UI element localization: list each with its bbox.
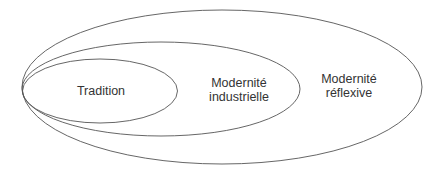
label-modernite-reflexive-line-2: réflexive: [304, 86, 394, 100]
label-modernite-industrielle-line-1: Modernité: [194, 76, 284, 90]
label-tradition: Tradition: [66, 84, 136, 98]
label-tradition-line-1: Tradition: [66, 84, 136, 98]
label-modernite-industrielle: Modernité industrielle: [194, 76, 284, 104]
label-modernite-reflexive-line-1: Modernité: [304, 72, 394, 86]
label-modernite-industrielle-line-2: industrielle: [194, 90, 284, 104]
label-modernite-reflexive: Modernité réflexive: [304, 72, 394, 100]
nested-ellipse-diagram: Tradition Modernité industrielle Moderni…: [0, 0, 443, 170]
